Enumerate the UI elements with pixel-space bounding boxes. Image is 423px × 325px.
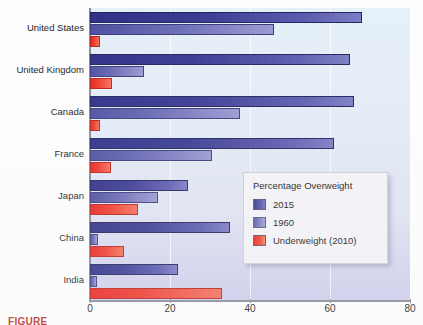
x-axis-tick-labels: 020406080	[90, 303, 410, 321]
legend-entries: 20151960Underweight (2010)	[253, 198, 387, 247]
legend-swatch-icon	[253, 199, 266, 210]
legend-label: 2015	[273, 199, 294, 210]
bar	[90, 12, 362, 23]
x-tick-label: 20	[164, 303, 175, 314]
bar	[90, 108, 240, 119]
bar	[90, 36, 100, 47]
y-tick-label: United States	[0, 22, 84, 33]
bar	[90, 162, 111, 173]
x-tick-label: 80	[404, 303, 415, 314]
bar	[90, 204, 138, 215]
legend-entry: 1960	[253, 216, 387, 229]
bar	[90, 246, 124, 257]
chart-legend: Percentage Overweight 20151960Underweigh…	[243, 172, 388, 264]
legend-entry: 2015	[253, 198, 387, 211]
legend-entry: Underweight (2010)	[253, 234, 387, 247]
bar	[90, 264, 178, 275]
bar	[90, 138, 334, 149]
bar	[90, 66, 144, 77]
legend-swatch-icon	[253, 235, 266, 246]
bar	[90, 96, 354, 107]
y-tick-label: China	[0, 232, 84, 243]
y-axis-tick-labels: United StatesUnited KingdomCanadaFranceJ…	[0, 8, 86, 302]
y-tick-label: United Kingdom	[0, 64, 84, 75]
bar	[90, 222, 230, 233]
gridline	[410, 8, 411, 302]
figure-container: United StatesUnited KingdomCanadaFranceJ…	[0, 0, 423, 325]
legend-swatch-icon	[253, 217, 266, 228]
x-tick-label: 40	[244, 303, 255, 314]
bar	[90, 24, 274, 35]
bar	[90, 288, 222, 299]
legend-label: 1960	[273, 217, 294, 228]
bar	[90, 120, 100, 131]
x-tick-label: 0	[87, 303, 93, 314]
bar	[90, 150, 212, 161]
y-tick-label: France	[0, 148, 84, 159]
y-tick-label: Japan	[0, 190, 84, 201]
y-tick-label: Canada	[0, 106, 84, 117]
bar	[90, 54, 350, 65]
figure-caption: FIGURE	[8, 316, 48, 325]
x-tick-label: 60	[324, 303, 335, 314]
bar	[90, 192, 158, 203]
bar	[90, 78, 112, 89]
bar	[90, 234, 98, 245]
bar	[90, 276, 97, 287]
y-tick-label: India	[0, 274, 84, 285]
legend-title: Percentage Overweight	[253, 180, 387, 191]
legend-label: Underweight (2010)	[273, 235, 356, 246]
bar	[90, 180, 188, 191]
